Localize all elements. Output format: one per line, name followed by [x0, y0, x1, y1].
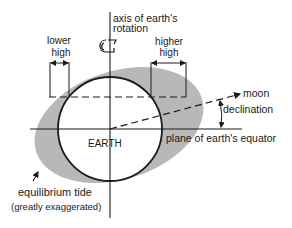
tide-label-line1: equilibrium tide	[18, 186, 92, 198]
declination-label: declination	[223, 103, 273, 115]
tide-label-line2: (greatly exaggerated)	[11, 201, 101, 212]
axis-label-line2: rotation	[113, 22, 148, 34]
tide-pointer	[33, 172, 38, 181]
higher-high-label-line1: higher	[155, 36, 183, 47]
lower-high-label-line2: high	[52, 47, 71, 58]
moon-label: moon	[243, 87, 269, 99]
earth-label: EARTH	[88, 138, 122, 149]
equator-label: plane of earth's equator	[166, 132, 277, 144]
lower-high-label-line1: lower	[47, 35, 72, 46]
higher-high-label-line2: high	[160, 47, 179, 58]
declination-arrow	[220, 101, 222, 127]
rotation-arrow-icon	[100, 40, 116, 52]
equilibrium-tide-diagram: axis of earth's rotation lower high high…	[0, 0, 292, 228]
